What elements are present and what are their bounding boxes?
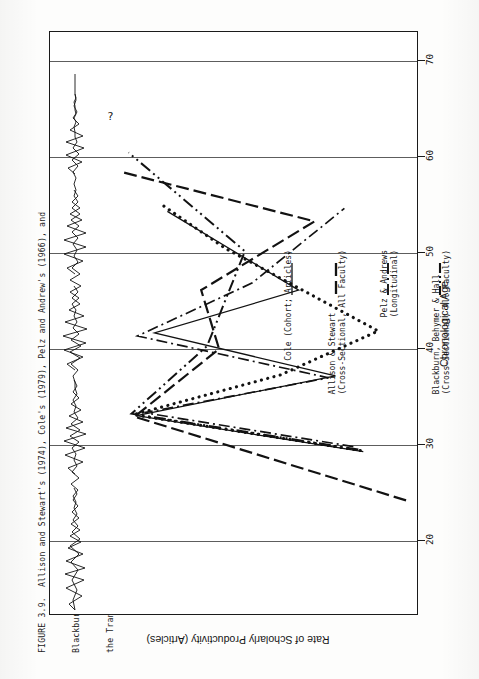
legend-swatch-long-dash	[330, 262, 342, 296]
scanned-page: FIGURE 3.9. Allison and Stewart's (1974)…	[0, 0, 479, 679]
legend-swatch-dash-dot-dot	[434, 262, 446, 296]
caption-line-1: FIGURE 3.9. Allison and Stewart's (1974)…	[37, 0, 48, 653]
x-tick-label-60: 60	[424, 150, 435, 161]
y-axis-title: Rate of Scholarly Productivity (Articles…	[88, 634, 388, 646]
x-tick-label-20: 20	[424, 534, 435, 545]
chart-legend: Cole (Cohort; Articles) Allison & Stewar…	[284, 36, 414, 381]
x-tick-label-30: 30	[424, 438, 435, 449]
x-tick-label-70: 70	[424, 54, 435, 65]
legend-swatch-solid	[286, 262, 298, 296]
figure-caption: FIGURE 3.9. Allison and Stewart's (1974)…	[0, 0, 46, 679]
legend-swatch-dash-dot	[382, 262, 394, 296]
